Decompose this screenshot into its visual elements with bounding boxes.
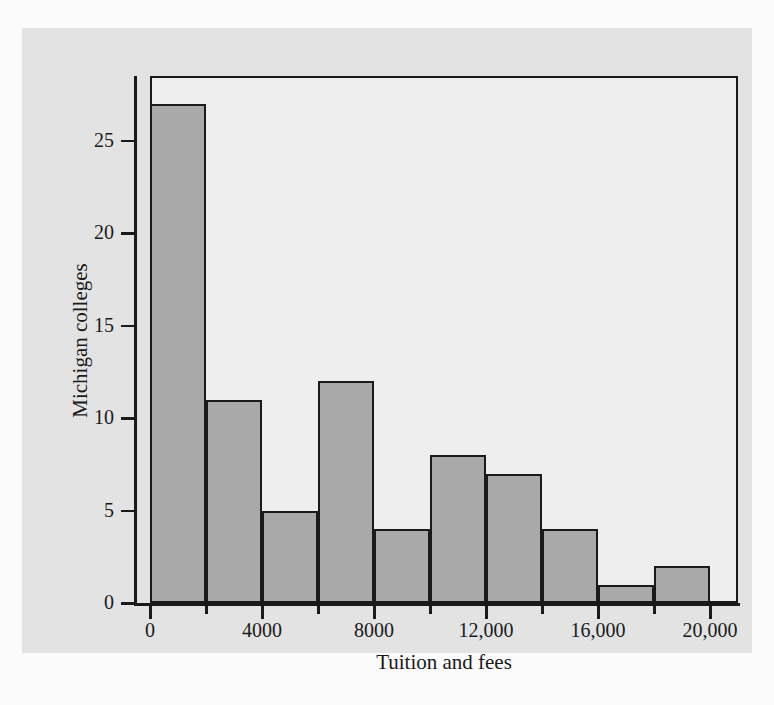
histogram-bar [430, 455, 486, 603]
y-tick-mark [121, 232, 134, 235]
x-tick-mark-major [149, 605, 152, 619]
y-tick-mark [121, 510, 134, 513]
y-tick-label: 5 [74, 500, 114, 520]
histogram-bar [262, 511, 318, 603]
histogram-bars [150, 76, 738, 603]
y-axis-title: Michigan colleges [68, 221, 93, 461]
y-tick-label: 0 [74, 592, 114, 612]
y-axis-line [134, 76, 137, 605]
figure-page: 0510152025 04000800012,00016,00020,000 T… [0, 0, 774, 705]
x-tick-mark-minor [541, 605, 544, 614]
x-tick-label: 16,000 [543, 620, 653, 640]
histogram-bar [486, 474, 542, 603]
figure-panel: 0510152025 04000800012,00016,00020,000 T… [22, 28, 752, 653]
histogram-bar [318, 381, 374, 603]
x-tick-mark-minor [429, 605, 432, 614]
y-tick-mark [121, 140, 134, 143]
y-tick-mark [121, 325, 134, 328]
x-tick-mark-minor [205, 605, 208, 614]
x-tick-label: 20,000 [655, 620, 765, 640]
y-tick-label: 25 [74, 130, 114, 150]
x-tick-label: 0 [95, 620, 205, 640]
x-tick-mark-major [597, 605, 600, 619]
x-tick-label: 4000 [207, 620, 317, 640]
histogram-bar [598, 585, 654, 603]
x-tick-mark-major [709, 605, 712, 619]
histogram-bar [654, 566, 710, 603]
x-axis-title: Tuition and fees [150, 650, 738, 675]
x-tick-label: 8000 [319, 620, 429, 640]
y-tick-mark [121, 417, 134, 420]
x-tick-label: 12,000 [431, 620, 541, 640]
x-axis-line [134, 603, 740, 606]
histogram-bar [374, 529, 430, 603]
x-tick-mark-major [485, 605, 488, 619]
y-tick-mark [121, 602, 134, 605]
x-tick-mark-minor [653, 605, 656, 614]
histogram-bar [206, 400, 262, 603]
x-tick-mark-minor [317, 605, 320, 614]
x-tick-mark-major [261, 605, 264, 619]
x-tick-mark-major [373, 605, 376, 619]
histogram-bar [542, 529, 598, 603]
histogram-bar [150, 104, 206, 603]
